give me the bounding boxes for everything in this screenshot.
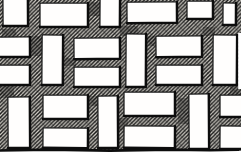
brick-a4-horizontal: [127, 2, 177, 23]
brick-b8-horizontal: [156, 65, 202, 85]
brick-face: [43, 128, 88, 148]
brick-c2-horizontal: [43, 95, 88, 119]
mortar-ink-smudge: [88, 2, 100, 16]
brick-face: [220, 95, 241, 117]
brick-a5-vertical: [187, 1, 213, 19]
brick-pattern-canvas: [0, 0, 241, 157]
brick-b1-horizontal: [0, 37, 30, 57]
paper-margin-patch: [238, 33, 241, 89]
brick-b7-horizontal: [156, 36, 202, 57]
brick-c1-vertical: [8, 97, 30, 148]
brick-face: [40, 3, 88, 27]
brick-face: [0, 37, 30, 57]
brick-face: [0, 65, 30, 85]
brick-face: [213, 35, 237, 85]
brick-c6-horizontal: [124, 126, 175, 148]
brick-face: [156, 36, 202, 57]
brick-b2-horizontal: [0, 65, 30, 85]
brick-b3-vertical: [42, 35, 63, 85]
brick-a6-horizontal: [223, 3, 236, 25]
brick-face: [156, 65, 202, 85]
brick-face: [220, 126, 241, 149]
brick-c3-horizontal: [43, 128, 88, 148]
brick-face: [3, 0, 28, 26]
brick-face: [126, 34, 146, 87]
brick-a1-vertical: [3, 0, 28, 26]
brick-c4-vertical: [98, 96, 118, 148]
paper-margin-patch: [0, 152, 241, 157]
brick-c8-horizontal: [220, 95, 241, 117]
brick-c5-horizontal: [124, 92, 175, 116]
brick-face: [124, 92, 175, 116]
brick-face: [127, 2, 177, 23]
brick-face: [189, 94, 209, 149]
mortar-ink-smudge: [146, 36, 156, 46]
brick-b5-horizontal: [74, 67, 120, 87]
drawing-bottom-edge: [0, 150, 239, 151]
mortar-ink-smudge: [178, 98, 190, 124]
brick-face: [8, 97, 30, 148]
brick-face: [223, 3, 236, 25]
brick-c9-horizontal: [220, 126, 241, 149]
brick-face: [187, 1, 213, 19]
mortar-ink-smudge: [2, 29, 16, 37]
brick-a3-vertical: [100, 0, 120, 27]
mortar-ink-smudge: [30, 36, 43, 56]
mortar-ink-smudge: [0, 86, 14, 98]
brick-c7-vertical: [189, 94, 209, 149]
brick-b9-vertical: [213, 35, 237, 85]
brick-face: [42, 35, 63, 85]
brick-face: [98, 96, 118, 148]
brick-b6-vertical: [126, 34, 146, 87]
brick-face: [43, 95, 88, 119]
brick-pattern-illustration: [0, 0, 241, 157]
brick-face: [124, 126, 175, 148]
brick-face: [74, 67, 120, 87]
brick-face: [74, 38, 120, 59]
brick-face: [100, 0, 120, 27]
brick-b4-horizontal: [74, 38, 120, 59]
brick-a2-horizontal: [40, 3, 88, 27]
